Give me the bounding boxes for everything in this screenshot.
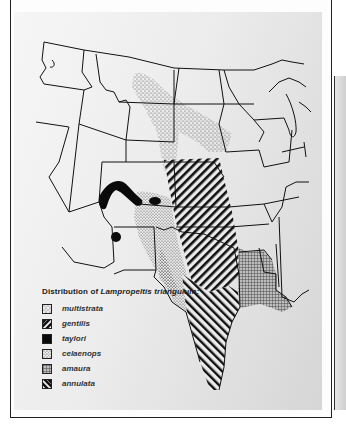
adjacent-page-edge	[334, 76, 346, 410]
range-amaura	[238, 248, 292, 312]
taylori-swatch	[42, 334, 52, 344]
legend-title-species: Lampropeltis triangulum:	[100, 287, 199, 296]
legend-label: annulata	[62, 379, 95, 388]
legend-label: taylori	[62, 334, 86, 343]
legend-label: multistrata	[62, 304, 103, 313]
legend: Distribution of Lampropeltis triangulum:…	[42, 287, 199, 391]
legend-title-prefix: Distribution of	[42, 287, 100, 296]
legend-item-gentilis: gentilis	[42, 316, 199, 331]
legend-item-annulata: annulata	[42, 376, 199, 391]
amaura-swatch	[42, 364, 52, 374]
legend-list: multistrata gentilis taylori celaenops a…	[42, 301, 199, 391]
gentilis-swatch	[42, 319, 52, 329]
legend-item-taylori: taylori	[42, 331, 199, 346]
legend-label: amaura	[62, 364, 90, 373]
legend-label: gentilis	[62, 319, 90, 328]
legend-title: Distribution of Lampropeltis triangulum:	[42, 287, 199, 296]
annulata-swatch	[42, 379, 52, 389]
celaenops-swatch	[42, 349, 52, 359]
legend-item-amaura: amaura	[42, 361, 199, 376]
legend-item-multistrata: multistrata	[42, 301, 199, 316]
legend-item-celaenops: celaenops	[42, 346, 199, 361]
multistrata-swatch	[42, 304, 52, 314]
legend-label: celaenops	[62, 349, 101, 358]
